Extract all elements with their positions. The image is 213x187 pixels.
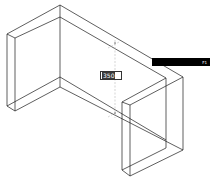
guide-endpoint-top — [114, 42, 116, 44]
command-tooltip: F1 — [152, 58, 210, 66]
guide-endpoint-bottom — [114, 112, 116, 114]
help-key-hint: F1 — [202, 60, 207, 65]
cad-viewport[interactable] — [0, 0, 213, 187]
bench-wireframe — [7, 5, 183, 176]
dimension-value: 350 — [102, 72, 115, 79]
dimension-input[interactable]: 350 — [100, 71, 122, 80]
